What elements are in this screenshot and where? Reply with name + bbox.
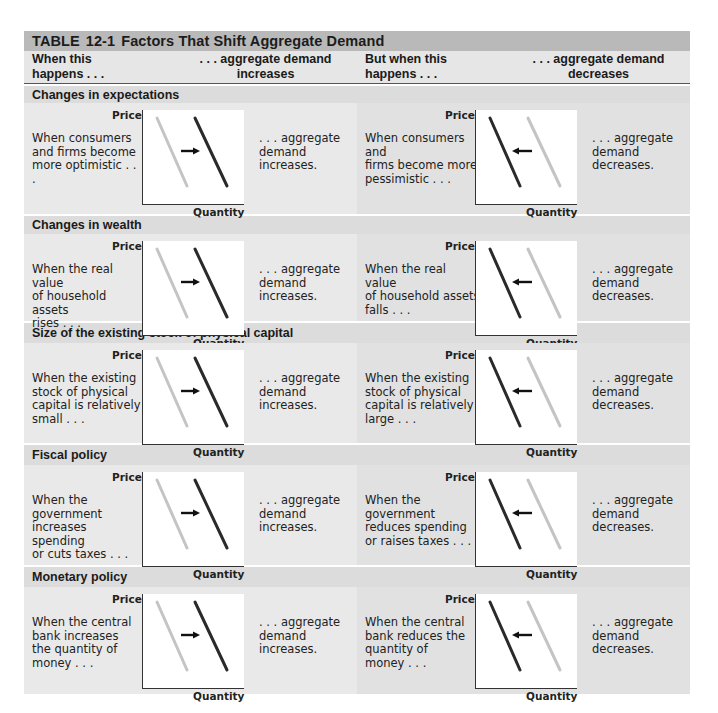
- table-section: Fiscal policy When the government increa…: [24, 443, 690, 565]
- demand-curves-left-shift: [476, 350, 577, 444]
- price-axis-label: Price: [445, 109, 475, 121]
- price-axis-label: Price: [112, 349, 142, 361]
- table-section: Changes in wealth When the real value of…: [24, 214, 690, 321]
- decrease-cause: When the real value of household assets …: [365, 263, 480, 317]
- new-demand-curve: [195, 249, 227, 317]
- price-axis-label: Price: [112, 471, 142, 483]
- price-axis-label: Price: [445, 349, 475, 361]
- ad-shift-left-graph: [475, 110, 577, 205]
- price-axis-label: Price: [112, 109, 142, 121]
- decrease-panel: When consumers and firms become more pes…: [357, 103, 690, 214]
- ad-shift-right-graph: [142, 594, 244, 689]
- quantity-axis-label: Quantity: [526, 206, 577, 218]
- increase-cause: When the existing stock of physical capi…: [32, 372, 142, 426]
- demand-curves-right-shift: [143, 241, 244, 335]
- section-content: When the central bank increases the quan…: [24, 587, 690, 694]
- demand-curves-right-shift: [143, 472, 244, 566]
- decrease-result: . . . aggregate demand decreases.: [592, 263, 690, 304]
- demand-curves-left-shift: [476, 472, 577, 566]
- table-header: When this happens . . . . . . aggregate …: [24, 51, 690, 84]
- section-label-text: Changes in wealth: [32, 218, 142, 232]
- increase-panel: When consumers and firms become more opt…: [24, 103, 357, 214]
- ad-shift-left-graph: [475, 350, 577, 445]
- new-demand-curve: [195, 358, 227, 426]
- ad-shift-right-graph: [142, 472, 244, 567]
- arrow-left-head-icon: [512, 632, 519, 639]
- table-section: Changes in expectations When consumers a…: [24, 84, 690, 214]
- ad-shift-left-graph: [475, 472, 577, 567]
- increase-panel: When the real value of household assets …: [24, 234, 357, 321]
- decrease-result: . . . aggregate demand decreases.: [592, 494, 690, 535]
- increase-result: . . . aggregate demand increases.: [259, 494, 357, 535]
- price-axis-label: Price: [112, 240, 142, 252]
- arrow-right-head-icon: [193, 388, 200, 395]
- decrease-cause: When the government reduces spending or …: [365, 494, 480, 548]
- price-axis-label: Price: [445, 471, 475, 483]
- decrease-result: . . . aggregate demand decreases.: [592, 132, 690, 173]
- decrease-result: . . . aggregate demand decreases.: [592, 372, 690, 413]
- section-label-text: Monetary policy: [32, 570, 127, 584]
- quantity-axis-label: Quantity: [193, 206, 244, 218]
- table-title: TABLE 12-1 Factors That Shift Aggregate …: [24, 31, 690, 51]
- original-demand-curve: [528, 358, 560, 426]
- decrease-panel: When the existing stock of physical capi…: [357, 343, 690, 443]
- ad-shift-left-graph: [475, 594, 577, 689]
- original-demand-curve: [528, 602, 560, 670]
- table-title-text: Factors That Shift Aggregate Demand: [121, 33, 384, 49]
- arrow-left-head-icon: [512, 279, 519, 286]
- decrease-cause: When the central bank reduces the quanti…: [365, 616, 480, 670]
- quantity-axis-label: Quantity: [526, 690, 577, 702]
- section-label: Changes in wealth: [24, 216, 690, 234]
- ad-shift-right-graph: [142, 241, 244, 336]
- decrease-result: . . . aggregate demand decreases.: [592, 616, 690, 657]
- new-demand-curve: [195, 602, 227, 670]
- increase-panel: When the central bank increases the quan…: [24, 587, 357, 694]
- table-title-prefix: TABLE: [32, 33, 80, 49]
- price-axis-label: Price: [445, 593, 475, 605]
- decrease-panel: When the real value of household assets …: [357, 234, 690, 321]
- table-number: 12-1: [86, 33, 115, 49]
- section-content: When consumers and firms become more opt…: [24, 103, 690, 214]
- increase-cause: When the government increases spending o…: [32, 494, 142, 562]
- demand-curves-right-shift: [143, 350, 244, 444]
- arrow-left-head-icon: [512, 510, 519, 517]
- quantity-axis-label: Quantity: [526, 446, 577, 458]
- section-label: Monetary policy: [24, 567, 690, 587]
- increase-result: . . . aggregate demand increases.: [259, 616, 357, 657]
- original-demand-curve: [528, 480, 560, 548]
- demand-curves-right-shift: [143, 110, 244, 204]
- original-demand-curve: [528, 118, 560, 186]
- demand-curves-left-shift: [476, 110, 577, 204]
- new-demand-curve: [195, 118, 227, 186]
- header-increase-effect: . . . aggregate demand increases: [174, 51, 357, 83]
- decrease-cause: When the existing stock of physical capi…: [365, 372, 480, 426]
- ad-shift-right-graph: [142, 110, 244, 205]
- decrease-panel: When the government reduces spending or …: [357, 465, 690, 565]
- quantity-axis-label: Quantity: [526, 568, 577, 580]
- price-axis-label: Price: [112, 593, 142, 605]
- header-decrease-cause: But when this happens . . .: [357, 51, 507, 83]
- section-content: When the existing stock of physical capi…: [24, 343, 690, 443]
- increase-cause: When consumers and firms become more opt…: [32, 132, 142, 186]
- increase-result: . . . aggregate demand increases.: [259, 263, 357, 304]
- section-label-text: Fiscal policy: [32, 448, 107, 462]
- increase-panel: When the government increases spending o…: [24, 465, 357, 565]
- arrow-right-head-icon: [193, 279, 200, 286]
- table-section: Monetary policy When the central bank in…: [24, 565, 690, 694]
- section-label: Fiscal policy: [24, 445, 690, 465]
- increase-cause: When the real value of household assets …: [32, 263, 142, 331]
- quantity-axis-label: Quantity: [193, 690, 244, 702]
- arrow-right-head-icon: [193, 510, 200, 517]
- ad-shift-left-graph: [475, 241, 577, 336]
- increase-result: . . . aggregate demand increases.: [259, 372, 357, 413]
- section-content: When the real value of household assets …: [24, 234, 690, 321]
- quantity-axis-label: Quantity: [193, 568, 244, 580]
- section-content: When the government increases spending o…: [24, 465, 690, 565]
- ad-shift-right-graph: [142, 350, 244, 445]
- arrow-left-head-icon: [512, 388, 519, 395]
- arrow-left-head-icon: [512, 148, 519, 155]
- quantity-axis-label: Quantity: [193, 446, 244, 458]
- price-axis-label: Price: [445, 240, 475, 252]
- new-demand-curve: [195, 480, 227, 548]
- section-label: Changes in expectations: [24, 86, 690, 103]
